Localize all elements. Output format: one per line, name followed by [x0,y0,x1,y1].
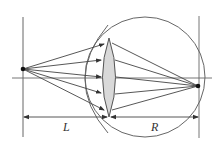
outgoing-ray [112,43,198,86]
lens [103,38,116,117]
outgoing-ray [112,86,198,110]
label-R: R [150,120,159,134]
eye-diagram: L R [0,0,218,144]
object-point [21,67,26,72]
label-L: L [62,120,70,134]
incoming-ray [23,44,104,69]
outgoing-ray [115,86,198,94]
incoming-rays [23,44,104,110]
image-point [196,84,201,89]
outgoing-ray [115,60,198,86]
incoming-ray [23,69,104,110]
incoming-ray [23,60,101,69]
outgoing-rays [112,43,198,110]
